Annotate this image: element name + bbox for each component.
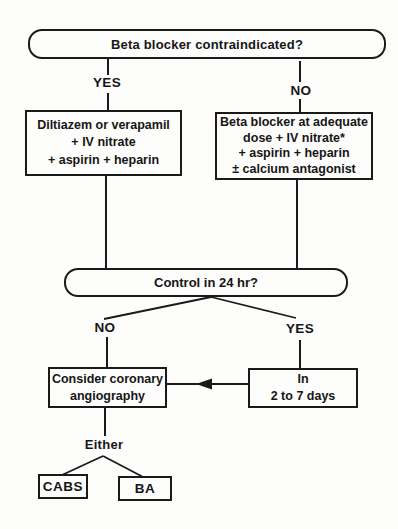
ba-label: BA	[135, 481, 156, 496]
control-split-lines	[104, 297, 296, 319]
no-branch-label: NO	[279, 83, 323, 98]
control-question-box: Control in 24 hr?	[64, 268, 348, 297]
flowchart-canvas: Beta blocker contraindicated? YES NO Dil…	[0, 0, 398, 529]
beta-blocker-line-3: + aspirin + heparin	[238, 146, 349, 162]
diltiazem-line-1: Diltiazem or verapamil	[37, 117, 170, 135]
beta-blocker-line-2: dose + IV nitrate*	[243, 131, 345, 147]
beta-blocker-line-4: ± calcium antagonist	[232, 162, 356, 178]
left-arrowhead-icon	[196, 379, 212, 390]
diltiazem-treatment-box: Diltiazem or verapamil + IV nitrate + as…	[25, 110, 182, 176]
angiography-box: Consider coronary angiography	[48, 367, 167, 408]
control-no-label: NO	[83, 320, 127, 335]
yes-branch-label: YES	[85, 75, 129, 90]
either-label: Either	[76, 437, 132, 452]
top-question-text: Beta blocker contraindicated?	[111, 37, 303, 52]
delay-line-1: In	[297, 371, 308, 388]
delay-box: In 2 to 7 days	[248, 368, 358, 408]
cabs-outcome-box: CABS	[38, 474, 88, 499]
beta-blocker-treatment-box: Beta blocker at adequate dose + IV nitra…	[215, 112, 373, 180]
cabs-label: CABS	[43, 479, 83, 494]
angiography-line-1: Consider coronary	[52, 371, 163, 388]
top-question-box: Beta blocker contraindicated?	[28, 29, 386, 59]
delay-line-2: 2 to 7 days	[271, 388, 336, 405]
control-yes-label: YES	[278, 321, 322, 336]
ba-outcome-box: BA	[118, 476, 172, 501]
control-question-text: Control in 24 hr?	[154, 275, 258, 290]
angiography-line-2: angiography	[70, 388, 145, 405]
diltiazem-line-2: + IV nitrate	[71, 134, 135, 152]
diltiazem-line-3: + aspirin + heparin	[48, 152, 159, 170]
connector-lines	[0, 0, 398, 529]
beta-blocker-line-1: Beta blocker at adequate	[220, 115, 368, 131]
